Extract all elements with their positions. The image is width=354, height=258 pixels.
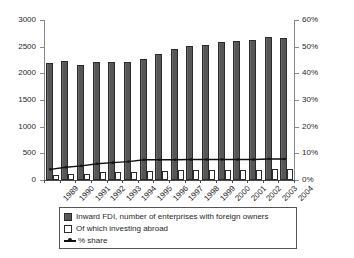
x-axis-tick [185, 180, 186, 183]
percent-share-point [205, 158, 208, 161]
legend-item-inward-fdi: Inward FDI, number of enterprises with f… [64, 211, 292, 222]
x-axis-tick [216, 180, 217, 183]
percent-share-line-series [44, 20, 294, 180]
line-with-dot-icon [64, 237, 76, 245]
y-axis-right-tick [295, 127, 299, 128]
x-axis-tick-label: 1994 [140, 184, 159, 203]
x-axis-tick [263, 180, 264, 183]
y-axis-left-tick-label: 3000 [0, 16, 36, 24]
legend-item-investing-abroad: Of which investing abroad [64, 223, 292, 234]
x-axis-tick [247, 180, 248, 183]
legend-item-percent-share: % share [64, 235, 292, 246]
y-axis-right-tick [295, 180, 299, 181]
y-axis-left-tick-label: 1000 [0, 123, 36, 131]
x-axis-tick [169, 180, 170, 183]
y-axis-right-tick-label: 60% [302, 16, 318, 24]
y-axis-right-tick-label: 40% [302, 69, 318, 77]
x-axis-tick [91, 180, 92, 183]
x-axis-tick-label: 2002 [265, 184, 284, 203]
y-axis-left-tick-label: 2500 [0, 43, 36, 51]
y-axis-right-tick [295, 47, 299, 48]
x-axis-tick-label: 2000 [233, 184, 252, 203]
percent-share-point [252, 158, 255, 161]
x-axis-tick-label: 1999 [218, 184, 237, 203]
percent-share-line [50, 159, 284, 169]
percent-share-point [49, 168, 52, 171]
x-axis-tick-label: 1989 [62, 184, 81, 203]
x-axis-tick-label: 1997 [187, 184, 206, 203]
x-axis-tick-label: 1991 [93, 184, 112, 203]
y-axis-right-tick-label: 30% [302, 96, 318, 104]
x-axis-tick-label: 1995 [155, 184, 174, 203]
y-axis-left-tick-label: 2000 [0, 69, 36, 77]
percent-share-point [143, 158, 146, 161]
percent-share-point [283, 158, 286, 161]
y-axis-right-tick [295, 20, 299, 21]
filled-square-icon [64, 213, 72, 221]
x-axis-tick [107, 180, 108, 183]
y-axis-right-tick-label: 0% [302, 176, 314, 184]
percent-share-point [96, 162, 99, 165]
percent-share-point [158, 158, 161, 161]
x-axis-tick-label: 1992 [108, 184, 127, 203]
percent-share-point [127, 160, 130, 163]
x-axis-tick [44, 180, 45, 183]
chart-legend: Inward FDI, number of enterprises with f… [59, 207, 297, 249]
percent-share-point [112, 161, 115, 164]
x-axis-tick [75, 180, 76, 183]
x-axis-tick [232, 180, 233, 183]
x-axis-tick [294, 180, 295, 183]
y-axis-right-tick-label: 50% [302, 43, 318, 51]
x-axis-tick [153, 180, 154, 183]
x-axis-tick [200, 180, 201, 183]
y-axis-left-tick-label: 1500 [0, 96, 36, 104]
percent-share-point [237, 158, 240, 161]
chart-container: 050010001500200025003000 0%10%20%30%40%5… [0, 0, 354, 258]
y-axis-right-tick [295, 100, 299, 101]
y-axis-right-tick-label: 10% [302, 149, 318, 157]
y-axis-left-tick-label: 0 [0, 176, 36, 184]
open-square-icon [64, 225, 72, 233]
x-axis-tick-label: 1998 [202, 184, 221, 203]
y-axis-right-tick-label: 20% [302, 123, 318, 131]
x-axis-tick-label: 2001 [249, 184, 268, 203]
y-axis-right-tick [295, 73, 299, 74]
x-axis-tick [278, 180, 279, 183]
x-axis-tick [138, 180, 139, 183]
percent-share-point [174, 158, 177, 161]
x-axis-tick-label: 2003 [280, 184, 299, 203]
percent-share-point [190, 158, 193, 161]
percent-share-point [221, 158, 224, 161]
x-axis-tick [122, 180, 123, 183]
x-axis-tick-label: 1993 [124, 184, 143, 203]
legend-label-inward-fdi: Inward FDI, number of enterprises with f… [76, 212, 269, 221]
y-axis-right-tick [295, 153, 299, 154]
percent-share-point [80, 165, 83, 168]
x-axis-tick-label: 1996 [171, 184, 190, 203]
x-axis-tick [60, 180, 61, 183]
percent-share-point [268, 158, 271, 161]
x-axis-tick-label: 2004 [296, 184, 315, 203]
legend-label-percent-share: % share [78, 236, 107, 245]
legend-label-investing-abroad: Of which investing abroad [76, 224, 168, 233]
percent-share-point [65, 166, 68, 169]
y-axis-left-tick-label: 500 [0, 149, 36, 157]
x-axis-tick-label: 1990 [77, 184, 96, 203]
plot-area [44, 20, 294, 180]
